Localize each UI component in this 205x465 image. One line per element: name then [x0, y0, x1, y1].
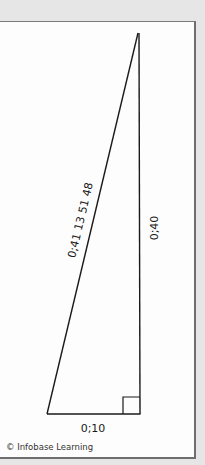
right-angle-marker — [123, 397, 140, 414]
hypotenuse-label: 0;41 13 51 48 — [65, 181, 96, 259]
base-label: 0;10 — [81, 422, 106, 435]
vertical-side-line — [139, 33, 140, 414]
hypotenuse-line — [47, 33, 138, 414]
vertical-side-label: 0;40 — [148, 216, 161, 241]
right-triangle-diagram: 0;41 13 51 48 0;40 0;10 — [0, 0, 205, 465]
credit-text: © Infobase Learning — [6, 442, 93, 452]
